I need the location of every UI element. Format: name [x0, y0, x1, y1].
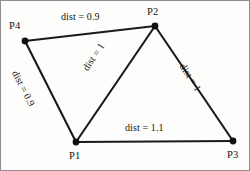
node-dot-p3 — [230, 138, 237, 145]
edge-p4-p1 — [25, 41, 76, 142]
graph-canvas — [1, 1, 250, 171]
node-dot-p1 — [73, 139, 80, 146]
node-label-p3: P3 — [227, 150, 238, 161]
node-label-p4: P4 — [9, 21, 20, 32]
edge-p4-p2 — [25, 26, 155, 41]
node-dot-p4 — [22, 38, 29, 45]
node-dot-p2 — [152, 23, 159, 30]
edge-label-p4-p2: dist = 0.9 — [61, 12, 100, 22]
graph-diagram-figure: P1P2P3P4dist = 0.9dist = 0.9dist = 1dist… — [0, 0, 250, 171]
edge-label-p1-p3: dist = 1.1 — [125, 123, 164, 133]
node-label-p1: P1 — [69, 151, 80, 162]
edge-p1-p3 — [76, 141, 233, 142]
node-label-p2: P2 — [147, 7, 158, 18]
